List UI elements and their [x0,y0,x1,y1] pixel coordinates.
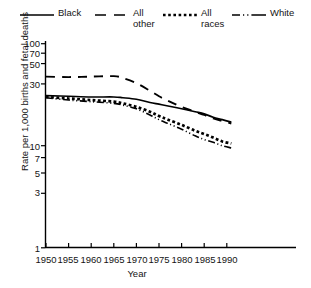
chart-canvas [0,0,311,288]
data-lines [46,76,231,148]
series-line-all-races [46,97,231,144]
plot-area: Rate per 1,000 births and fetal deaths Y… [0,0,311,288]
figure-root: Black All other All races White Rate per… [0,0,311,288]
series-line-white [46,98,231,148]
